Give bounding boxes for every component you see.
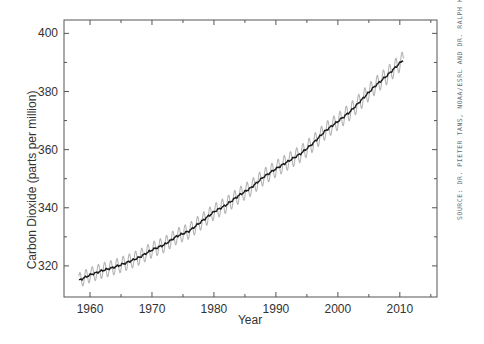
x-tick-label: 1960: [77, 302, 104, 316]
y-tick-label: 360: [38, 143, 58, 157]
x-axis-title: Year: [238, 313, 262, 327]
trend-series-line: [79, 61, 403, 280]
plot-frame: [64, 20, 437, 297]
x-tick-label: 2010: [386, 302, 413, 316]
source-credit-text: SOURCE: DR. PIETER TANS, NOAA/ESRL AND D…: [456, 0, 464, 220]
x-tick-label: 1980: [201, 302, 228, 316]
y-tick-label: 320: [38, 259, 58, 273]
x-tick-label: 2000: [325, 302, 352, 316]
y-axis-ticks: [64, 33, 437, 266]
x-axis-ticks: [90, 20, 431, 297]
y-axis-title: Carbon Dioxide (parts per million): [25, 91, 39, 270]
x-tick-label: 1990: [263, 302, 290, 316]
y-axis-tick-labels: 320340360380400: [38, 26, 58, 273]
y-tick-label: 340: [38, 201, 58, 215]
seasonal-series-line: [79, 52, 404, 286]
y-tick-label: 380: [38, 85, 58, 99]
x-tick-label: 1970: [139, 302, 166, 316]
co2-chart: 196019701980199020002010 320340360380400…: [0, 0, 484, 344]
y-tick-label: 400: [38, 26, 58, 40]
